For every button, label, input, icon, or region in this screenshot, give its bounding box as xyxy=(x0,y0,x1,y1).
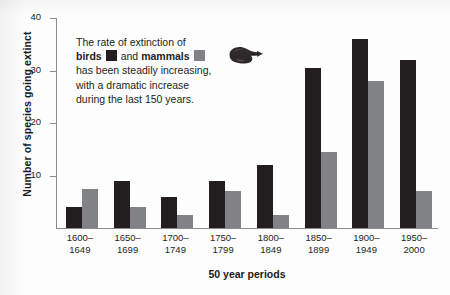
x-axis-label-line: 1899 xyxy=(295,244,343,256)
x-axis-label: 1700–1749 xyxy=(152,232,200,256)
bar-birds xyxy=(209,181,225,228)
legend-label-mammals: mammals xyxy=(141,50,189,62)
bar-birds xyxy=(161,197,177,229)
x-axis-label-line: 1749 xyxy=(152,244,200,256)
bar-mammals xyxy=(416,191,432,228)
y-axis-tick-label: 30 xyxy=(30,64,41,75)
x-axis-label-line: 1699 xyxy=(104,244,152,256)
x-axis-label: 1600–1649 xyxy=(56,232,104,256)
annotation-line-1-text: The rate of extinction of xyxy=(76,36,186,48)
legend-label-birds: birds xyxy=(76,50,102,62)
x-axis-label: 1850–1899 xyxy=(295,232,343,256)
bar-birds xyxy=(114,181,130,228)
bar-mammals xyxy=(321,152,337,228)
x-axis-label: 1800–1849 xyxy=(247,232,295,256)
bar-birds xyxy=(66,207,82,228)
x-axis-label-line: 1850– xyxy=(295,232,343,244)
bar-birds xyxy=(352,39,368,228)
bar-mammals xyxy=(368,81,384,228)
annotation-line-5: during the last 150 years. xyxy=(76,92,244,106)
x-axis-label-line: 1800– xyxy=(247,232,295,244)
x-axis-label-line: 1900– xyxy=(343,232,391,244)
y-axis-title: Number of species going extinct xyxy=(21,4,33,224)
bar-mammals xyxy=(273,215,289,228)
annotation-line-2-middle: and xyxy=(121,50,139,62)
x-axis-label-line: 1950– xyxy=(390,232,438,244)
annotation-line-2: birdsand mammals xyxy=(76,49,244,63)
x-axis-label-line: 1949 xyxy=(343,244,391,256)
annotation-line-3-text: has been steadily increasing, xyxy=(76,64,211,76)
bar-group xyxy=(305,18,337,228)
legend-swatch-birds xyxy=(106,50,117,61)
y-axis-tick-label: 10 xyxy=(30,169,41,180)
x-axis-label-line: 1849 xyxy=(247,244,295,256)
y-axis-tick-label: 20 xyxy=(30,116,41,127)
bar-mammals xyxy=(225,191,241,228)
bar-birds xyxy=(305,68,321,228)
annotation-line-3: has been steadily increasing, xyxy=(76,63,244,77)
x-axis-label-line: 1600– xyxy=(56,232,104,244)
x-axis-label: 1950–2000 xyxy=(390,232,438,256)
pointing-hand-icon xyxy=(228,44,264,66)
bar-group xyxy=(352,18,384,228)
x-axis-label: 1750–1799 xyxy=(199,232,247,256)
x-axis-title: 50 year periods xyxy=(56,268,438,280)
x-axis-label: 1900–1949 xyxy=(343,232,391,256)
bar-chart: Number of species going extinct 10203040… xyxy=(0,0,450,295)
x-axis-labels: 1600–16491650–16991700–17491750–17991800… xyxy=(56,232,438,264)
x-axis-label-line: 2000 xyxy=(390,244,438,256)
annotation-line-5-text: during the last 150 years. xyxy=(76,93,194,105)
x-axis-label: 1650–1699 xyxy=(104,232,152,256)
x-axis-label-line: 1649 xyxy=(56,244,104,256)
annotation-callout: The rate of extinction of birdsand mamma… xyxy=(76,35,244,106)
legend-swatch-mammals xyxy=(194,50,205,61)
bar-mammals xyxy=(130,207,146,228)
x-axis-label-line: 1799 xyxy=(199,244,247,256)
bar-mammals xyxy=(177,215,193,228)
bar-group xyxy=(400,18,432,228)
bar-birds xyxy=(257,165,273,228)
x-axis-line xyxy=(56,228,438,229)
x-axis-label-line: 1750– xyxy=(199,232,247,244)
annotation-line-4-text: with a dramatic increase xyxy=(76,79,189,91)
bar-mammals xyxy=(82,189,98,228)
y-axis-tick-label: 40 xyxy=(30,11,41,22)
bar-birds xyxy=(400,60,416,228)
x-axis-label-line: 1650– xyxy=(104,232,152,244)
annotation-line-1: The rate of extinction of xyxy=(76,35,244,49)
x-axis-label-line: 1700– xyxy=(152,232,200,244)
annotation-line-4: with a dramatic increase xyxy=(76,78,244,92)
